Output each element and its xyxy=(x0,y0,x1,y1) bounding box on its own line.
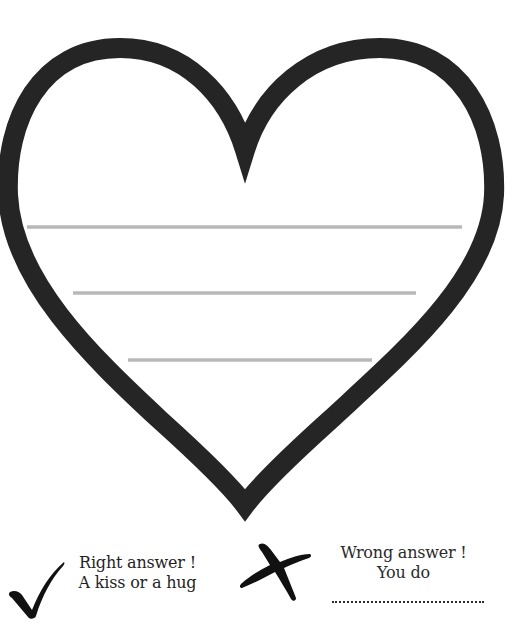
right-answer-line2: A kiss or a hug xyxy=(70,573,205,593)
heart-outline xyxy=(0,0,523,530)
cross-icon xyxy=(238,538,313,604)
heart-shape xyxy=(8,48,494,505)
checkmark-icon xyxy=(8,560,66,620)
wrong-answer-line1: Wrong answer ! xyxy=(326,543,481,563)
right-answer-text: Right answer ! A kiss or a hug xyxy=(70,553,205,593)
wrong-answer-line2: You do xyxy=(326,563,481,583)
fill-in-blank-line xyxy=(332,601,484,603)
wrong-answer-text: Wrong answer ! You do xyxy=(326,543,481,583)
right-answer-line1: Right answer ! xyxy=(70,553,205,573)
